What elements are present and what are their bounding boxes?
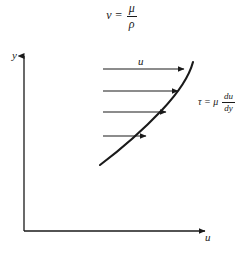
flow-velocity-label: u: [138, 56, 144, 67]
derivative-denominator: dy: [222, 104, 235, 113]
tau-equals: =: [204, 96, 211, 107]
x-axis-label: u: [205, 232, 211, 243]
mu-symbol: μ: [213, 96, 218, 107]
tau-symbol: τ: [198, 96, 202, 107]
du-over-dy-fraction: du dy: [222, 92, 235, 114]
shear-stress-equation: τ = μ du dy: [198, 92, 236, 114]
figure-drawing: [0, 0, 244, 254]
y-axis-label: y: [12, 50, 17, 61]
velocity-profile-curve: [100, 62, 193, 165]
viscosity-velocity-profile-figure: v = μ ρ y u u τ = μ du: [0, 0, 244, 254]
derivative-numerator: du: [222, 92, 235, 101]
